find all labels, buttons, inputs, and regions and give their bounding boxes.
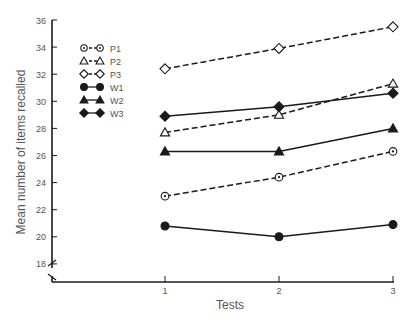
legend-item-w3: W3 [80,109,124,119]
open-diamond-marker-icon [80,70,89,79]
y-tick-label: 26 [36,151,46,161]
y-tick-label: 20 [36,232,46,242]
legend-item-p3: P3 [80,70,121,80]
y-tick-label: 36 [36,16,46,26]
chart-canvas: 18202224262830323436123 P1P2P3W1W2W3 Mea… [0,0,412,325]
y-tick-label: 22 [36,205,46,215]
legend-label: W2 [110,96,124,106]
open-diamond-marker-icon [160,64,170,74]
y-tick-label: 18 [36,259,46,269]
line-chart: 18202224262830323436123 P1P2P3W1W2W3 Mea… [0,0,412,325]
series-p3 [160,22,398,74]
filled-circle-marker-icon [97,84,104,91]
series-p1 [161,148,397,200]
filled-diamond-marker-icon [388,88,398,98]
filled-diamond-marker-icon [80,109,89,118]
open-diamond-marker-icon [274,43,284,53]
legend: P1P2P3W1W2W3 [80,44,124,119]
filled-triangle-marker-icon [388,124,397,132]
x-axis-label: Tests [216,298,244,312]
open-diamond-marker-icon [96,70,105,79]
y-tick-label: 34 [36,43,46,53]
legend-item-p1: P1 [81,44,121,54]
series-w2 [160,124,397,155]
legend-item-w1: W1 [81,83,124,93]
y-tick-label: 30 [36,97,46,107]
series-w1 [161,221,397,241]
filled-circle-marker-icon [161,222,169,230]
series-group [160,22,398,241]
open-triangle-marker-icon [388,79,397,87]
axes: 18202224262830323436123 [36,16,396,297]
y-axis-label: Mean number of items recalled [14,70,28,235]
x-tick-label: 3 [390,286,395,296]
y-tick-label: 24 [36,178,46,188]
legend-label: P2 [110,57,121,67]
open-triangle-marker-icon [96,57,104,64]
legend-label: W3 [110,109,124,119]
legend-item-w2: W2 [80,96,123,106]
x-tick-label: 1 [162,286,167,296]
filled-circle-marker-icon [389,221,397,229]
legend-label: P1 [110,44,121,54]
x-tick-label: 2 [276,286,281,296]
y-tick-label: 32 [36,70,46,80]
filled-diamond-marker-icon [160,111,170,121]
y-tick-label: 28 [36,124,46,134]
filled-circle-marker-icon [275,233,283,241]
filled-diamond-marker-icon [274,102,284,112]
filled-circle-marker-icon [81,84,88,91]
legend-item-p2: P2 [80,57,121,67]
legend-label: P3 [110,70,121,80]
filled-diamond-marker-icon [96,109,105,118]
open-diamond-marker-icon [388,22,398,32]
legend-label: W1 [110,83,124,93]
